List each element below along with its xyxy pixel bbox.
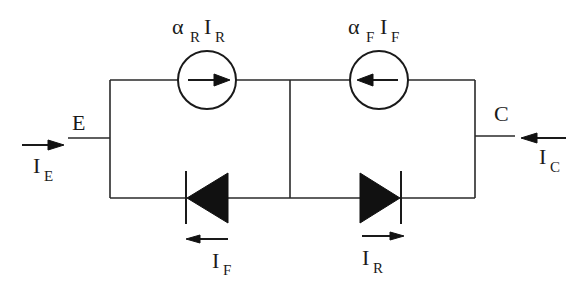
alpha-f-if-label: α F I F — [348, 14, 399, 45]
diode-emitter — [186, 171, 228, 224]
current-source-alpha-r — [178, 51, 236, 109]
ic-label: I C — [539, 144, 560, 175]
collector-label: C — [494, 101, 509, 126]
svg-text:I: I — [362, 245, 369, 270]
svg-text:F: F — [391, 29, 399, 45]
circuit-wires — [68, 80, 515, 198]
svg-text:I: I — [33, 153, 40, 178]
svg-text:F: F — [223, 262, 231, 278]
svg-text:I: I — [539, 144, 546, 169]
arrow-right-icon — [214, 74, 230, 86]
arrow-right-icon — [48, 140, 64, 150]
alpha-r-ir-label: α R I R — [172, 14, 225, 45]
ir-label: I R — [362, 245, 383, 276]
svg-text:R: R — [373, 260, 383, 276]
emitter-label: E — [72, 110, 85, 135]
arrow-left-icon — [186, 235, 200, 243]
svg-text:R: R — [215, 29, 225, 45]
if-label: I F — [212, 248, 231, 278]
current-source-alpha-f — [350, 51, 408, 109]
arrow-left-icon — [521, 133, 537, 143]
arrow-right-icon — [390, 232, 404, 240]
svg-text:R: R — [190, 29, 200, 45]
svg-text:C: C — [550, 159, 560, 175]
svg-text:E: E — [44, 168, 53, 184]
arrow-left-icon — [357, 74, 373, 86]
svg-text:I: I — [204, 14, 211, 39]
if-current-arrow — [186, 235, 228, 243]
emitter-current-arrow — [22, 140, 64, 150]
svg-text:F: F — [366, 29, 374, 45]
diode-collector — [360, 171, 401, 224]
ie-label: I E — [33, 153, 53, 184]
svg-text:I: I — [380, 14, 387, 39]
svg-text:I: I — [212, 248, 219, 273]
collector-current-arrow — [521, 133, 566, 143]
svg-text:α: α — [348, 14, 360, 39]
ir-current-arrow — [362, 232, 404, 240]
svg-text:α: α — [172, 14, 184, 39]
ebers-moll-circuit: E C I E I C α R I R α F I F I F I R — [0, 0, 586, 290]
